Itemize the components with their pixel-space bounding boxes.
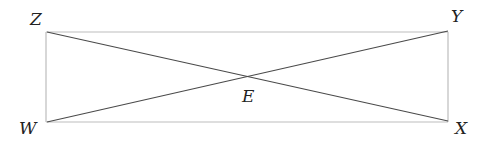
vertex-label-y: Y [451, 6, 464, 26]
vertex-label-z: Z [29, 9, 43, 29]
vertex-labels: Z Y X W E [19, 6, 468, 138]
rectangle-diagram: Z Y X W E [0, 0, 489, 142]
diagonal-wy [47, 31, 448, 122]
diagonals [47, 31, 448, 122]
intersection-label-e: E [241, 86, 255, 106]
vertex-label-x: X [453, 118, 468, 138]
vertex-label-w: W [19, 118, 38, 138]
